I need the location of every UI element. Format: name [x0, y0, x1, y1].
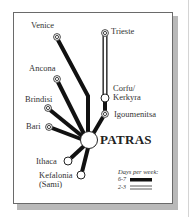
- route-ithaca: [71, 146, 84, 158]
- node-ithaca[interactable]: [64, 157, 72, 165]
- node-bari[interactable]: [46, 124, 53, 131]
- node-trieste[interactable]: [102, 30, 109, 37]
- label-corfu-line2: Kerkyra: [113, 93, 141, 102]
- label-ancona: Ancona: [29, 64, 55, 73]
- route-diagram: [0, 0, 191, 217]
- label-brindisi: Brindisi: [25, 95, 52, 104]
- legend-label-6-7: 6-7: [118, 176, 126, 182]
- label-trieste: Trieste: [111, 27, 134, 36]
- node-brindisi[interactable]: [45, 105, 52, 112]
- label-kefalonia-line2: (Sami): [39, 180, 62, 189]
- node-venice[interactable]: [54, 34, 61, 41]
- legend-label-2-3: 2-3: [118, 184, 126, 190]
- label-bari: Bari: [26, 122, 41, 131]
- node-corfu[interactable]: [101, 94, 109, 102]
- legend-swatch-solid: [130, 178, 152, 182]
- node-kefalonia[interactable]: [77, 171, 85, 179]
- node-ancona[interactable]: [54, 76, 61, 83]
- node-igoumenitsa[interactable]: [102, 111, 109, 118]
- label-igoumenitsa: Igoumenitsa: [114, 110, 156, 119]
- label-venice: Venice: [31, 21, 54, 30]
- node-patras-hub[interactable]: [81, 132, 98, 149]
- label-ithaca: Ithaca: [36, 157, 57, 166]
- legend-swatch-double: [130, 186, 152, 189]
- label-patras: PATRAS: [100, 132, 152, 148]
- route-kefalonia: [82, 148, 88, 172]
- legend-title: Days per week:: [118, 168, 158, 175]
